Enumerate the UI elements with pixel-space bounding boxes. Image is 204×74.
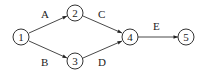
edge-label-c: C <box>98 8 105 20</box>
svg-text:5: 5 <box>183 31 189 43</box>
edge-label-b: B <box>41 56 48 68</box>
node-3: 3 <box>67 53 83 69</box>
svg-text:2: 2 <box>72 7 78 19</box>
node-5: 5 <box>178 29 194 45</box>
edge-a: A <box>29 8 67 33</box>
edge-label-a: A <box>41 8 49 20</box>
activity-network-diagram: A B C D E 1 2 3 4 5 <box>0 0 204 74</box>
svg-text:4: 4 <box>127 31 133 43</box>
node-1: 1 <box>13 29 29 45</box>
edge-c: C <box>83 8 122 33</box>
edge-b: B <box>29 41 67 68</box>
edge-label-e: E <box>153 20 160 32</box>
node-2: 2 <box>67 5 83 21</box>
edge-e: E <box>138 20 178 37</box>
edge-d: D <box>83 41 122 68</box>
svg-text:1: 1 <box>18 31 24 43</box>
svg-text:3: 3 <box>72 55 78 67</box>
node-4: 4 <box>122 29 138 45</box>
edge-label-d: D <box>98 56 106 68</box>
